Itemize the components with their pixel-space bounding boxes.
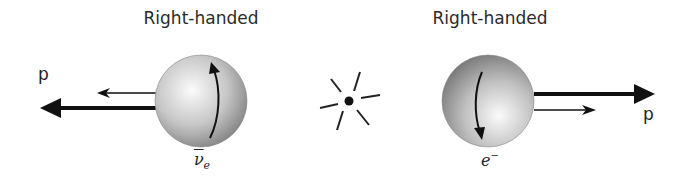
- left-momentum-label: p: [38, 64, 49, 84]
- diagram-canvas: [0, 0, 689, 187]
- right-momentum-arrow: [534, 84, 655, 104]
- electron-label: e−: [481, 150, 499, 170]
- antineutrino-sphere: [155, 55, 247, 147]
- electron-sphere: [442, 55, 534, 147]
- electron-superscript: −: [491, 150, 499, 161]
- left-momentum-arrow: [40, 98, 156, 118]
- antineutrino-label: νe: [194, 150, 210, 172]
- antineutrino-subscript: e: [204, 159, 211, 172]
- left-spin-arrow: [97, 88, 156, 98]
- right-spin-arrow: [534, 105, 596, 115]
- right-momentum-label: p: [643, 104, 654, 124]
- decay-vertex-star-icon: [320, 72, 380, 130]
- antineutrino-symbol: ν: [194, 150, 204, 169]
